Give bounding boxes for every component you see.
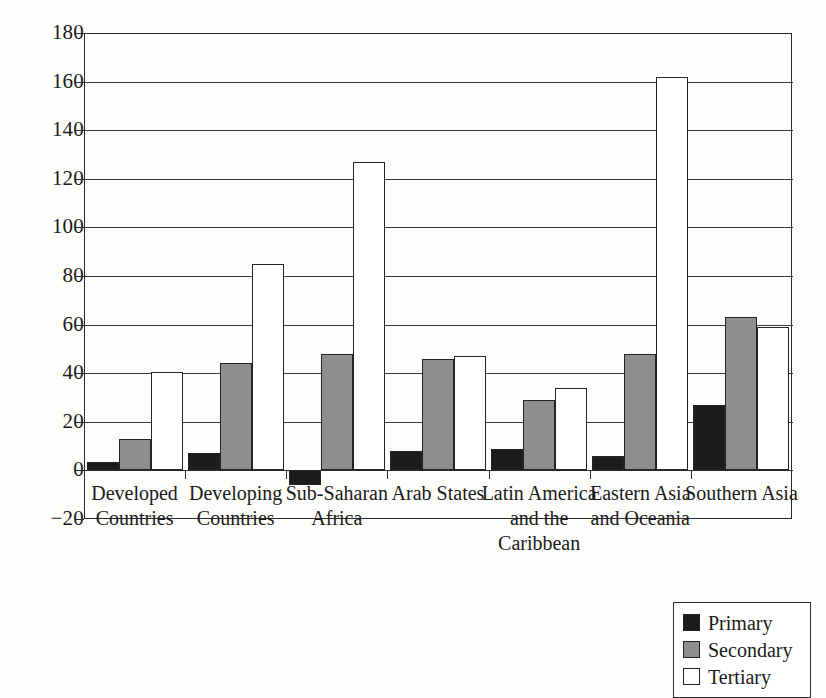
bar-tertiary <box>353 162 385 471</box>
y-axis-tick-mark <box>75 325 84 326</box>
x-axis-tick-mark <box>387 470 388 479</box>
category-label-line: and Oceania <box>560 506 720 531</box>
legend: PrimarySecondaryTertiary <box>673 602 811 698</box>
x-axis-category-label: Southern Asia <box>661 481 821 506</box>
bars-layer <box>84 33 792 519</box>
y-axis-tick-label: 180 <box>14 22 84 43</box>
legend-swatch-primary <box>683 614 700 631</box>
category-label-line: Caribbean <box>459 531 619 556</box>
bar-secondary <box>220 363 252 470</box>
bar-tertiary <box>555 388 587 471</box>
x-axis-tick-mark <box>691 470 692 479</box>
bar-secondary <box>321 354 353 471</box>
y-axis-tick-label: 20 <box>14 411 84 432</box>
y-axis-tick-mark <box>75 276 84 277</box>
y-axis-tick-mark <box>75 179 84 180</box>
bar-tertiary <box>757 327 789 470</box>
bar-primary <box>491 449 523 471</box>
bar-secondary <box>624 354 656 471</box>
x-axis-tick-mark <box>590 470 591 479</box>
y-axis-tick-mark <box>75 422 84 423</box>
y-axis-tick-label: 140 <box>14 119 84 140</box>
y-axis-tick-mark <box>75 373 84 374</box>
y-axis-tick-mark <box>75 130 84 131</box>
bar-primary <box>390 451 422 470</box>
bar-tertiary <box>151 372 183 470</box>
y-axis-tick-label: 40 <box>14 362 84 383</box>
bar-secondary <box>523 400 555 470</box>
bar-secondary <box>422 359 454 471</box>
bar-primary <box>592 456 624 471</box>
x-axis-tick-mark <box>286 470 287 479</box>
y-axis-tick-mark <box>75 470 84 471</box>
y-axis-tick-label: 0 <box>14 459 84 480</box>
bar-primary <box>188 453 220 470</box>
x-axis-tick-mark <box>489 470 490 479</box>
x-axis-tick-mark <box>185 470 186 479</box>
y-axis-tick-mark <box>75 33 84 34</box>
bar-tertiary <box>656 77 688 471</box>
y-axis-tick-mark <box>75 227 84 228</box>
bar-primary <box>693 405 725 471</box>
y-axis-tick-mark <box>75 82 84 83</box>
bar-secondary <box>119 439 151 471</box>
bar-tertiary <box>454 356 486 470</box>
legend-item-secondary: Secondary <box>683 636 801 663</box>
bar-secondary <box>725 317 757 470</box>
legend-label: Tertiary <box>708 667 771 687</box>
legend-item-primary: Primary <box>683 609 801 636</box>
legend-item-tertiary: Tertiary <box>683 663 801 690</box>
category-label-line: Southern Asia <box>661 481 821 506</box>
y-axis-tick-label: 160 <box>14 71 84 92</box>
bar-primary <box>87 462 119 471</box>
category-label-line: Africa <box>257 506 417 531</box>
bar-tertiary <box>252 264 284 471</box>
y-axis-tick-label: 80 <box>14 265 84 286</box>
legend-label: Secondary <box>708 640 792 660</box>
bar-primary <box>289 470 321 485</box>
y-axis-tick-label: 120 <box>14 168 84 189</box>
legend-swatch-tertiary <box>683 668 700 685</box>
legend-swatch-secondary <box>683 641 700 658</box>
y-axis-tick-label: 100 <box>14 216 84 237</box>
y-axis-tick-label: 60 <box>14 314 84 335</box>
legend-label: Primary <box>708 613 772 633</box>
